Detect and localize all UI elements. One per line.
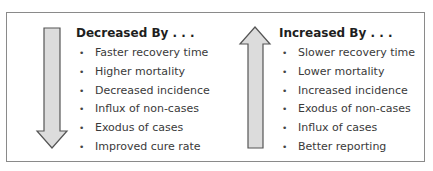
- bullet-icon: •: [282, 82, 287, 101]
- bullet-icon: •: [79, 119, 84, 138]
- bullet-icon: •: [79, 63, 84, 82]
- down-arrow-icon: [37, 28, 67, 148]
- list-item: •Faster recovery time: [76, 44, 210, 63]
- decreased-by-heading: Decreased By . . .: [76, 25, 210, 41]
- bullet-icon: •: [282, 44, 287, 63]
- bullet-icon: •: [282, 119, 287, 138]
- bullet-icon: •: [282, 138, 287, 157]
- list-item: •Better reporting: [279, 138, 415, 157]
- list-item: •Slower recovery time: [279, 44, 415, 63]
- list-item: •Lower mortality: [279, 63, 415, 82]
- list-item: •Influx of non-cases: [76, 100, 210, 119]
- bullet-icon: •: [282, 100, 287, 119]
- list-item: •Exodus of non-cases: [279, 100, 415, 119]
- bullet-icon: •: [282, 63, 287, 82]
- list-item: •Decreased incidence: [76, 82, 210, 101]
- bullet-icon: •: [79, 138, 84, 157]
- increased-by-panel: Increased By . . . •Slower recovery time…: [279, 25, 415, 157]
- decreased-by-panel: Decreased By . . . •Faster recovery time…: [76, 25, 210, 157]
- list-item: •Increased incidence: [279, 82, 415, 101]
- bullet-icon: •: [79, 100, 84, 119]
- increased-by-list: •Slower recovery time •Lower mortality •…: [279, 44, 415, 157]
- list-item: •Exodus of cases: [76, 119, 210, 138]
- increased-by-heading: Increased By . . .: [279, 25, 415, 41]
- list-item: •Influx of cases: [279, 119, 415, 138]
- decreased-by-list: •Faster recovery time •Higher mortality …: [76, 44, 210, 157]
- bullet-icon: •: [79, 82, 84, 101]
- list-item: •Improved cure rate: [76, 138, 210, 157]
- bullet-icon: •: [79, 44, 84, 63]
- list-item: •Higher mortality: [76, 63, 210, 82]
- up-arrow-icon: [240, 27, 270, 148]
